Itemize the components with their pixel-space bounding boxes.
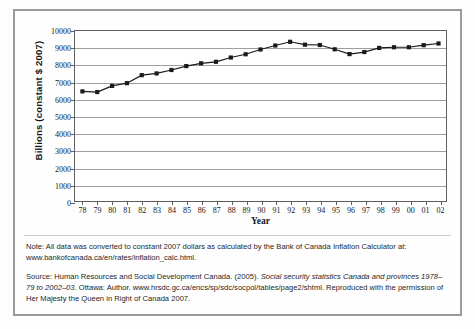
x-tick-label: 80 — [108, 206, 116, 215]
y-tick-label: 3000 — [55, 147, 71, 156]
x-tick-label: 81 — [123, 206, 131, 215]
x-tick-label: 79 — [93, 206, 101, 215]
x-tick-label: 96 — [347, 206, 355, 215]
source-segment-1: Source: Human Resources and Social Devel… — [26, 272, 261, 281]
data-point-marker — [392, 45, 396, 49]
chart-region: Billions (constant $ 2007) 0100020003000… — [15, 11, 464, 232]
y-tick-label: 5000 — [55, 113, 71, 122]
data-point-marker — [303, 43, 307, 47]
y-tick-label: 0 — [67, 199, 71, 208]
caption-block: Note: All data was converted to constant… — [26, 241, 450, 304]
source-paragraph: Source: Human Resources and Social Devel… — [26, 271, 450, 305]
source-segment-3: . Ottawa: Author. www.hrsdc.gc.ca/encs/s… — [26, 283, 443, 303]
x-tick-label: 89 — [243, 206, 251, 215]
data-point-marker — [184, 64, 188, 68]
y-axis-title: Billions (constant $ 2007) — [33, 16, 44, 186]
x-tick-label: 93 — [302, 206, 310, 215]
y-tick-label: 10000 — [51, 27, 71, 36]
data-point-marker — [229, 55, 233, 59]
data-point-marker — [125, 81, 129, 85]
x-tick-label: 94 — [317, 206, 325, 215]
y-tick-mark — [71, 203, 75, 204]
figure-frame: Billions (constant $ 2007) 0100020003000… — [13, 9, 462, 316]
x-tick-label: 87 — [213, 206, 221, 215]
data-point-marker — [258, 47, 262, 51]
data-point-marker — [110, 84, 114, 88]
data-point-marker — [377, 46, 381, 50]
data-point-marker — [288, 40, 292, 44]
plot-area: 0100020003000400050006000700080009000100… — [74, 30, 447, 202]
data-point-marker — [140, 73, 144, 77]
data-point-marker — [422, 43, 426, 47]
data-point-marker — [169, 68, 173, 72]
data-series-line — [75, 31, 446, 202]
x-tick-label: 97 — [362, 206, 370, 215]
x-tick-label: 91 — [272, 206, 280, 215]
data-point-marker — [318, 43, 322, 47]
data-point-marker — [347, 52, 351, 56]
x-tick-label: 85 — [183, 206, 191, 215]
data-point-marker — [199, 61, 203, 65]
data-point-marker — [155, 71, 159, 75]
x-tick-label: 88 — [228, 206, 236, 215]
data-point-marker — [273, 43, 277, 47]
x-axis-title: Year — [74, 216, 447, 226]
x-tick-label: 00 — [407, 206, 415, 215]
data-point-marker — [362, 50, 366, 54]
x-tick-label: 01 — [422, 206, 430, 215]
y-tick-label: 1000 — [55, 181, 71, 190]
y-tick-label: 8000 — [55, 61, 71, 70]
x-tick-label: 02 — [437, 206, 445, 215]
x-tick-label: 92 — [287, 206, 295, 215]
note-paragraph: Note: All data was converted to constant… — [26, 241, 450, 264]
caption-divider — [24, 235, 451, 236]
y-tick-label: 6000 — [55, 95, 71, 104]
x-tick-label: 82 — [138, 206, 146, 215]
x-tick-label: 84 — [168, 206, 176, 215]
x-tick-label: 98 — [377, 206, 385, 215]
x-tick-label: 83 — [153, 206, 161, 215]
y-tick-label: 2000 — [55, 164, 71, 173]
plot-wrapper: 0100020003000400050006000700080009000100… — [74, 30, 447, 202]
x-tick-label: 90 — [258, 206, 266, 215]
note-line-1: Note: All data was converted to constant… — [26, 242, 396, 251]
y-tick-label: 7000 — [55, 78, 71, 87]
data-point-marker — [333, 47, 337, 51]
data-point-marker — [80, 89, 84, 93]
data-point-marker — [436, 41, 440, 45]
data-point-marker — [214, 60, 218, 64]
y-tick-label: 9000 — [55, 44, 71, 53]
figure-container: Billions (constant $ 2007) 0100020003000… — [0, 0, 475, 329]
data-point-marker — [95, 90, 99, 94]
data-point-marker — [407, 45, 411, 49]
x-tick-label: 78 — [78, 206, 86, 215]
y-tick-label: 4000 — [55, 130, 71, 139]
x-tick-label: 86 — [198, 206, 206, 215]
x-tick-label: 95 — [332, 206, 340, 215]
x-tick-label: 99 — [392, 206, 400, 215]
data-point-marker — [244, 52, 248, 56]
